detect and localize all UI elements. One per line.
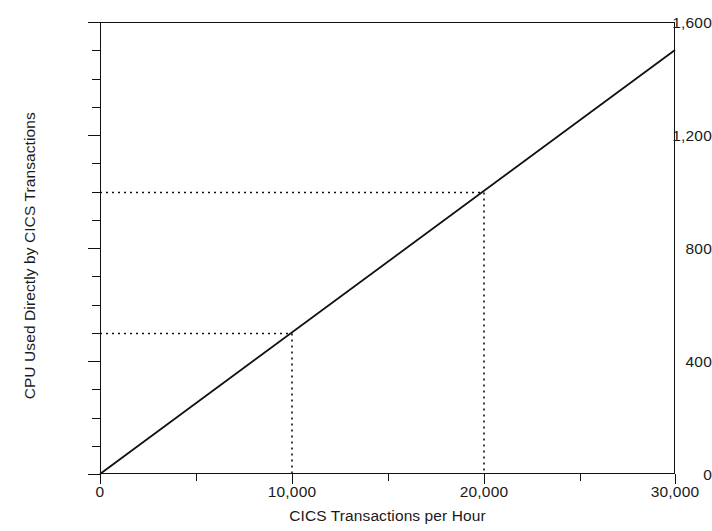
y-tick-400 [88,361,101,362]
y-tick-1300 [92,107,101,108]
y-tick-label-0: 0 [628,467,712,483]
y-tick-1000 [92,192,101,193]
x-tick-label-0: 0 [40,484,160,500]
y-tick-700 [92,276,101,277]
y-tick-1600 [88,22,101,23]
y-axis-title: CPU Used Directly by CICS Transactions [22,76,38,436]
x-tick-5000 [196,474,197,481]
y-tick-label-1600: 1,600 [628,15,712,31]
y-tick-label-800: 800 [628,241,712,257]
x-tick-label-30000: 30,000 [615,484,712,500]
y-tick-1200 [88,135,101,136]
x-tick-label-10000: 10,000 [232,484,352,500]
y-tick-1500 [92,50,101,51]
x-tick-15000 [388,474,389,481]
y-tick-800 [88,248,101,249]
plot-area [100,22,675,474]
y-tick-600 [92,305,101,306]
y-tick-300 [92,389,101,390]
y-tick-label-1200: 1,200 [628,128,712,144]
y-tick-200 [92,418,101,419]
y-tick-100 [92,446,101,447]
y-tick-label-400: 400 [628,354,712,370]
y-tick-900 [92,220,101,221]
y-tick-1100 [92,163,101,164]
y-tick-500 [92,333,101,334]
y-tick-1400 [92,79,101,80]
cpu-vs-transactions-chart: 1,600 1,200 800 400 0 0 10,000 20,000 30… [0,0,712,531]
x-tick-label-20000: 20,000 [424,484,544,500]
x-tick-25000 [580,474,581,481]
x-axis-title: CICS Transactions per Hour [100,508,675,524]
